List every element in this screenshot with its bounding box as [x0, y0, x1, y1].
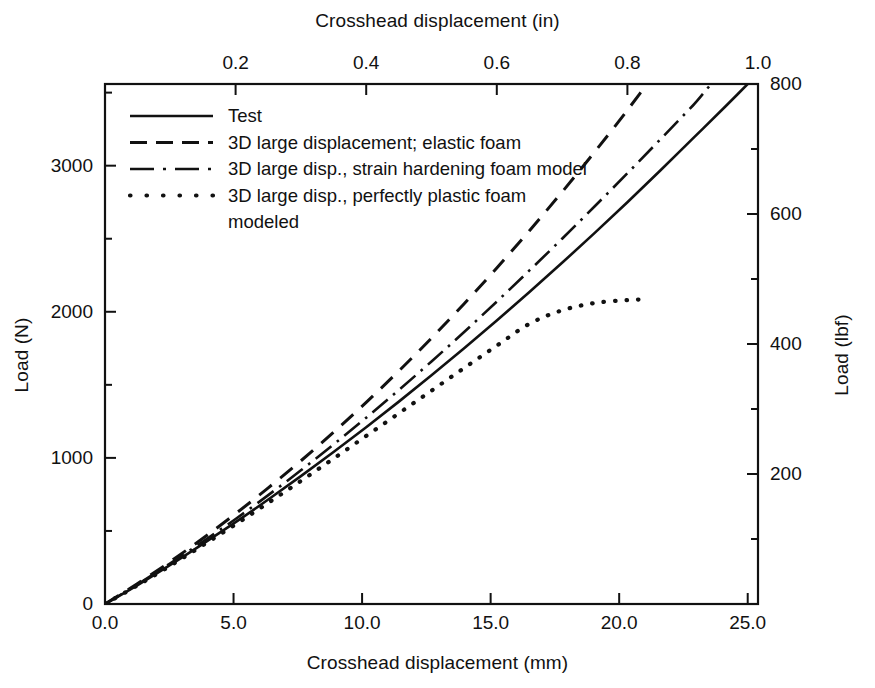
ytick-label: 2000	[51, 301, 93, 323]
ytick-label: 1000	[51, 447, 93, 469]
y2tick-label: 600	[770, 203, 802, 225]
plot-area	[0, 0, 875, 688]
x2tick-label: 0.2	[222, 52, 248, 74]
ytick-label: 0	[82, 593, 93, 615]
legend-label-2: 3D large disp., strain hardening foam mo…	[228, 158, 587, 180]
legend-label-3: 3D large disp., perfectly plastic foam	[228, 185, 526, 207]
xtick-label: 5.0	[220, 612, 246, 634]
chart-figure: Crosshead displacement (in) Crosshead di…	[0, 0, 875, 688]
xtick-label: 20.0	[601, 612, 638, 634]
legend-label-1: 3D large displacement; elastic foam	[228, 132, 521, 154]
xtick-label: 0.0	[92, 612, 118, 634]
y2tick-label: 400	[770, 333, 802, 355]
y2tick-label: 800	[770, 73, 802, 95]
legend-sample-lines	[130, 116, 213, 196]
y2tick-label: 200	[770, 463, 802, 485]
series-line-dotted	[105, 299, 645, 604]
x2tick-label: 1.0	[745, 52, 771, 74]
xtick-label: 10.0	[344, 612, 381, 634]
xtick-label: 15.0	[472, 612, 509, 634]
x2tick-label: 0.4	[353, 52, 379, 74]
x2tick-label: 0.8	[614, 52, 640, 74]
xtick-label: 25.0	[729, 612, 766, 634]
ytick-label: 3000	[51, 155, 93, 177]
legend-label-4: modeled	[228, 211, 299, 233]
x2tick-label: 0.6	[484, 52, 510, 74]
legend-label-0: Test	[228, 105, 262, 127]
